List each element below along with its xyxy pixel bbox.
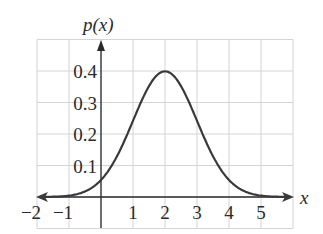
x-tick-label: 1	[128, 202, 138, 223]
x-tick-label: 5	[256, 202, 266, 223]
y-tick-label: 0.3	[73, 93, 97, 114]
x-tick-label: −1	[53, 202, 73, 223]
y-axis-label: p(x)	[81, 14, 114, 36]
x-tick-labels: −2−112345	[21, 202, 266, 223]
x-tick-label: 4	[224, 202, 234, 223]
y-tick-label: 0.4	[73, 61, 97, 82]
chart: −2−112345 0.10.20.30.4 p(x) x	[0, 0, 323, 234]
x-axis-label: x	[299, 187, 309, 208]
y-tick-labels: 0.10.20.30.4	[73, 61, 97, 177]
y-tick-label: 0.2	[73, 124, 97, 145]
y-axis-arrow-icon	[97, 40, 105, 51]
x-tick-label: 2	[160, 202, 170, 223]
x-tick-label: 3	[192, 202, 202, 223]
y-tick-label: 0.1	[73, 156, 97, 177]
x-tick-label: −2	[21, 202, 41, 223]
